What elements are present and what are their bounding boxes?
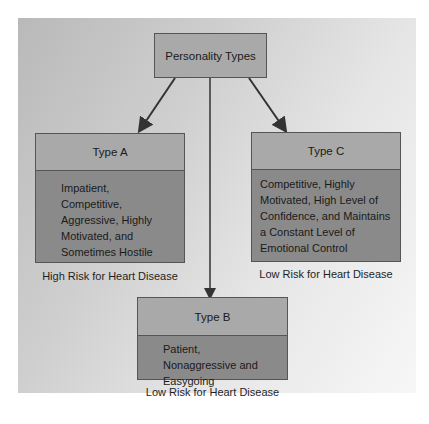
type-c-title: Type C [252,133,400,170]
type-b-risk: Low Risk for Heart Disease [137,386,288,398]
arrow-to-type-a [140,78,175,130]
root-label: Personality Types [165,50,256,62]
type-b-title: Type B [138,298,287,336]
type-a-description: Impatient, Competitive, Aggressive, High… [36,171,184,262]
arrow-to-type-c [249,78,285,130]
type-a-title: Type A [36,134,184,171]
type-c-description: Competitive, Highly Motivated, High Leve… [252,170,400,261]
root-node-personality-types: Personality Types [154,33,267,78]
node-type-b: Type B Patient, Nonaggressive and Easygo… [137,297,288,380]
type-a-risk: High Risk for Heart Disease [35,270,185,282]
type-b-description: Patient, Nonaggressive and Easygoing [138,336,287,379]
node-type-c: Type C Competitive, Highly Motivated, Hi… [251,132,401,262]
type-c-risk: Low Risk for Heart Disease [251,268,401,280]
node-type-a: Type A Impatient, Competitive, Aggressiv… [35,133,185,263]
